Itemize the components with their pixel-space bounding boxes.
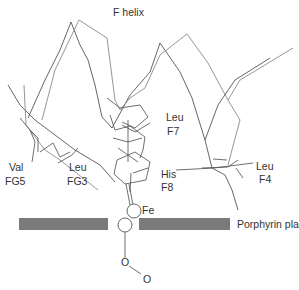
label-f8: F8 (161, 181, 173, 193)
his-f8-imidazole-ring (114, 152, 150, 184)
label-f7: F7 (167, 125, 179, 137)
backbone-chain-light-right (228, 48, 293, 100)
label-f4: F4 (259, 173, 271, 185)
backbone-chain-dark (8, 85, 115, 182)
label-his: His (161, 168, 176, 180)
label-leu-fg3: Leu (69, 161, 87, 173)
backbone-chain-light-upper (42, 20, 240, 165)
label-val: Val (9, 161, 23, 173)
leu-f4-arrow (236, 168, 243, 178)
label-oxygen-1: O (121, 256, 129, 268)
label-leu-f7: Leu (166, 111, 184, 123)
val-fg5-sidechain (20, 118, 35, 162)
leu-f4-sidechain (202, 160, 238, 168)
backbone-chain-dark-upper (28, 22, 238, 210)
central-crossbar (113, 138, 142, 142)
leu-f4-branch (213, 159, 227, 160)
label-leu-f4: Leu (256, 160, 274, 172)
label-fg3: FG3 (67, 175, 88, 187)
heme-pocket-diagram: F helix Val FG5 Leu FG3 Leu F7 His F8 Le… (0, 0, 299, 290)
o2-bond-diagonal (129, 266, 141, 274)
porphyrin-plane-left (19, 218, 108, 230)
f-helix-title: F helix (113, 6, 145, 18)
label-oxygen-2: O (143, 273, 151, 285)
label-porphyrin-plane: Porphyrin plane (237, 218, 299, 230)
his-f8-ring-inner (133, 168, 148, 173)
label-fe: Fe (142, 204, 154, 216)
fe-atom (127, 204, 141, 218)
proximal-atom (118, 218, 132, 232)
porphyrin-plane-right (139, 218, 230, 230)
label-fg5: FG5 (5, 175, 26, 187)
